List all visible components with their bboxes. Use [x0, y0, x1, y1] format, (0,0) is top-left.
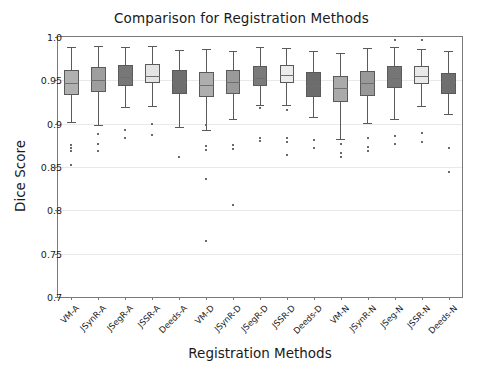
whisker-lower: [448, 94, 449, 114]
outlier-point: [124, 129, 126, 131]
outlier-point: [70, 147, 72, 149]
x-tick-mark: [179, 297, 180, 300]
outlier-point: [205, 240, 207, 242]
whisker-lower: [313, 97, 314, 117]
outlier-point: [340, 156, 342, 158]
whisker-cap-upper: [121, 47, 130, 48]
box-plot-box: [280, 65, 295, 83]
outlier-point: [313, 139, 315, 141]
outlier-point: [421, 39, 423, 41]
whisker-upper: [421, 49, 422, 65]
grid-line: [58, 167, 462, 168]
whisker-upper: [98, 46, 99, 68]
grid-line: [58, 254, 462, 255]
outlier-point: [70, 150, 72, 152]
whisker-upper: [367, 48, 368, 71]
outlier-point: [394, 39, 396, 41]
outlier-point: [232, 204, 234, 206]
plot-area: 0.70.750.80.850.90.951.0: [57, 36, 463, 298]
whisker-cap-lower: [336, 139, 345, 140]
y-tick-label: 0.75: [2, 248, 62, 259]
outlier-point: [448, 171, 450, 173]
whisker-lower: [98, 92, 99, 125]
whisker-upper: [448, 51, 449, 73]
outlier-point: [205, 124, 207, 126]
whisker-cap-upper: [148, 46, 157, 47]
y-tick-label: 1.0: [2, 32, 62, 43]
outlier-point: [205, 149, 207, 151]
whisker-upper: [233, 51, 234, 70]
whisker-cap-lower: [67, 122, 76, 123]
outlier-point: [178, 156, 180, 158]
whisker-upper: [179, 50, 180, 70]
whisker-cap-lower: [94, 125, 103, 126]
outlier-point: [97, 143, 99, 145]
x-tick-mark: [395, 297, 396, 300]
median-line: [64, 83, 79, 84]
grid-line: [58, 124, 462, 125]
whisker-cap-lower: [363, 123, 372, 124]
outlier-point: [367, 137, 369, 139]
x-tick-mark: [287, 297, 288, 300]
median-line: [306, 86, 321, 87]
y-tick-label: 0.8: [2, 205, 62, 216]
outlier-point: [394, 135, 396, 137]
median-line: [333, 88, 348, 89]
whisker-cap-upper: [309, 51, 318, 52]
outlier-point: [259, 140, 261, 142]
outlier-point: [232, 144, 234, 146]
outlier-point: [286, 137, 288, 139]
outlier-point: [421, 141, 423, 143]
whisker-lower: [260, 86, 261, 105]
whisker-lower: [367, 96, 368, 123]
x-tick-mark: [98, 297, 99, 300]
whisker-upper: [394, 47, 395, 67]
median-line: [118, 77, 133, 78]
x-tick-mark: [206, 297, 207, 300]
whisker-cap-upper: [444, 51, 453, 52]
median-line: [145, 76, 160, 77]
whisker-cap-upper: [363, 48, 372, 49]
median-line: [360, 83, 375, 84]
outlier-point: [340, 143, 342, 145]
outlier-point: [340, 152, 342, 154]
whisker-cap-lower: [229, 119, 238, 120]
outlier-point: [124, 137, 126, 139]
x-tick-mark: [233, 297, 234, 300]
whisker-lower: [125, 86, 126, 108]
whisker-cap-upper: [202, 49, 211, 50]
x-tick-mark: [314, 297, 315, 300]
x-tick-mark: [152, 297, 153, 300]
whisker-lower: [421, 84, 422, 107]
whisker-upper: [286, 48, 287, 64]
outlier-point: [367, 150, 369, 152]
outlier-point: [367, 146, 369, 148]
x-tick-mark: [449, 297, 450, 300]
whisker-cap-lower: [121, 107, 130, 108]
whisker-cap-lower: [444, 114, 453, 115]
median-line: [226, 82, 241, 83]
whisker-cap-lower: [417, 106, 426, 107]
outlier-point: [151, 134, 153, 136]
whisker-cap-lower: [256, 105, 265, 106]
whisker-lower: [179, 94, 180, 127]
outlier-point: [421, 132, 423, 134]
whisker-cap-lower: [202, 130, 211, 131]
x-tick-mark: [368, 297, 369, 300]
whisker-cap-lower: [390, 119, 399, 120]
y-tick-label: 0.7: [2, 292, 62, 303]
median-line: [414, 76, 429, 77]
x-tick-mark: [125, 297, 126, 300]
whisker-lower: [233, 94, 234, 119]
whisker-lower: [152, 83, 153, 106]
whisker-lower: [286, 83, 287, 105]
box-plot-figure: Comparison for Registration Methods Dice…: [0, 0, 483, 375]
outlier-point: [313, 147, 315, 149]
outlier-point: [232, 148, 234, 150]
outlier-point: [205, 178, 207, 180]
x-tick-mark: [71, 297, 72, 300]
outlier-point: [286, 109, 288, 111]
box-plot-box: [414, 66, 429, 84]
whisker-cap-lower: [282, 105, 291, 106]
y-tick-label: 0.85: [2, 162, 62, 173]
